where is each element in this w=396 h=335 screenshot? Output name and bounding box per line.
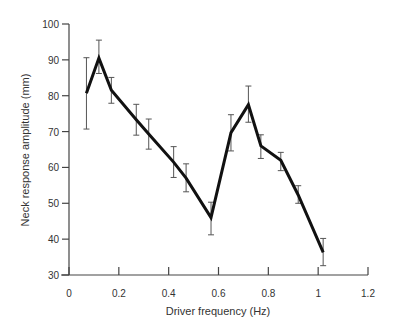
line-chart: 3040506070809010000.20.40.60.811.2 Drive… [0, 0, 396, 335]
y-tick-label: 50 [48, 198, 60, 209]
x-tick-label: 0.4 [162, 288, 176, 299]
x-axis-label: Driver frequency (Hz) [166, 305, 271, 317]
error-bars [83, 40, 326, 266]
y-tick-label: 80 [48, 91, 60, 102]
data-line [86, 58, 323, 252]
x-tick-label: 1 [315, 288, 321, 299]
x-tick-label: 0 [66, 288, 72, 299]
y-tick-label: 40 [48, 234, 60, 245]
y-tick-label: 90 [48, 55, 60, 66]
y-axis-label: Neck response amplitude (mm) [19, 74, 31, 227]
axes: 3040506070809010000.20.40.60.811.2 [42, 19, 375, 299]
x-tick-label: 0.8 [261, 288, 275, 299]
y-tick-label: 60 [48, 162, 60, 173]
y-tick-label: 30 [48, 270, 60, 281]
y-tick-label: 100 [42, 19, 59, 30]
x-tick-label: 1.2 [361, 288, 375, 299]
x-tick-label: 0.2 [112, 288, 126, 299]
x-tick-label: 0.6 [212, 288, 226, 299]
y-tick-label: 70 [48, 127, 60, 138]
